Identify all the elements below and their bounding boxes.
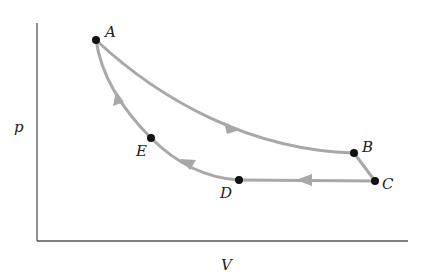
label-e: E (135, 142, 147, 160)
point-e (147, 134, 155, 142)
arrow-c-d-icon (296, 174, 312, 186)
path-a-b (96, 40, 354, 153)
point-a (92, 36, 100, 44)
label-d: D (219, 184, 232, 202)
y-axis-label: p (14, 118, 24, 136)
path-b-c (354, 153, 375, 181)
point-d (235, 176, 243, 184)
point-b (350, 149, 358, 157)
path-e-a (96, 40, 151, 138)
pv-diagram: A B C D E p V (0, 0, 421, 278)
path-d-e (151, 138, 239, 180)
label-b: B (361, 138, 373, 156)
label-c: C (382, 175, 394, 193)
x-axis-label: V (221, 256, 234, 274)
label-a: A (103, 23, 116, 41)
point-c (371, 177, 379, 185)
